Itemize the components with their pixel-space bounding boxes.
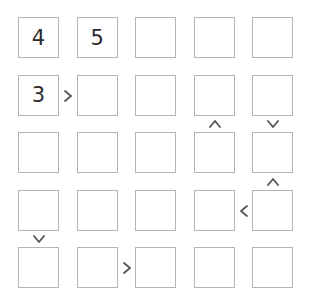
grid-cell-r5c3[interactable] bbox=[135, 247, 176, 288]
grid-cell-r3c4[interactable] bbox=[194, 132, 235, 173]
grid-cell-r1c1[interactable]: 4 bbox=[18, 17, 59, 58]
chevron-down-icon bbox=[266, 117, 280, 131]
grid-cell-r1c2[interactable]: 5 bbox=[77, 17, 118, 58]
grid-cell-r2c4[interactable] bbox=[194, 75, 235, 116]
grid-cell-r5c2[interactable] bbox=[77, 247, 118, 288]
grid-cell-r4c4[interactable] bbox=[194, 190, 235, 231]
grid-cell-r3c5[interactable] bbox=[252, 132, 293, 173]
grid-cell-r1c5[interactable] bbox=[252, 17, 293, 58]
grid-cell-r4c1[interactable] bbox=[18, 190, 59, 231]
grid-cell-r5c4[interactable] bbox=[194, 247, 235, 288]
greater-than-icon bbox=[120, 261, 134, 275]
grid-cell-r2c5[interactable] bbox=[252, 75, 293, 116]
futoshiki-board: 453 bbox=[0, 0, 310, 306]
grid-cell-r2c2[interactable] bbox=[77, 75, 118, 116]
grid-cell-r1c3[interactable] bbox=[135, 17, 176, 58]
grid-cell-r2c1[interactable]: 3 bbox=[18, 75, 59, 116]
grid-cell-r2c3[interactable] bbox=[135, 75, 176, 116]
grid-cell-r5c5[interactable] bbox=[252, 247, 293, 288]
chevron-up-icon bbox=[266, 175, 280, 189]
grid-cell-r4c2[interactable] bbox=[77, 190, 118, 231]
less-than-icon bbox=[237, 204, 251, 218]
chevron-down-icon bbox=[32, 232, 46, 246]
grid-cell-r3c2[interactable] bbox=[77, 132, 118, 173]
grid-cell-r1c4[interactable] bbox=[194, 17, 235, 58]
grid-cell-r4c5[interactable] bbox=[252, 190, 293, 231]
grid-cell-r3c1[interactable] bbox=[18, 132, 59, 173]
chevron-up-icon bbox=[208, 117, 222, 131]
grid-cell-r4c3[interactable] bbox=[135, 190, 176, 231]
grid-cell-r5c1[interactable] bbox=[18, 247, 59, 288]
grid-cell-r3c3[interactable] bbox=[135, 132, 176, 173]
greater-than-icon bbox=[61, 89, 75, 103]
